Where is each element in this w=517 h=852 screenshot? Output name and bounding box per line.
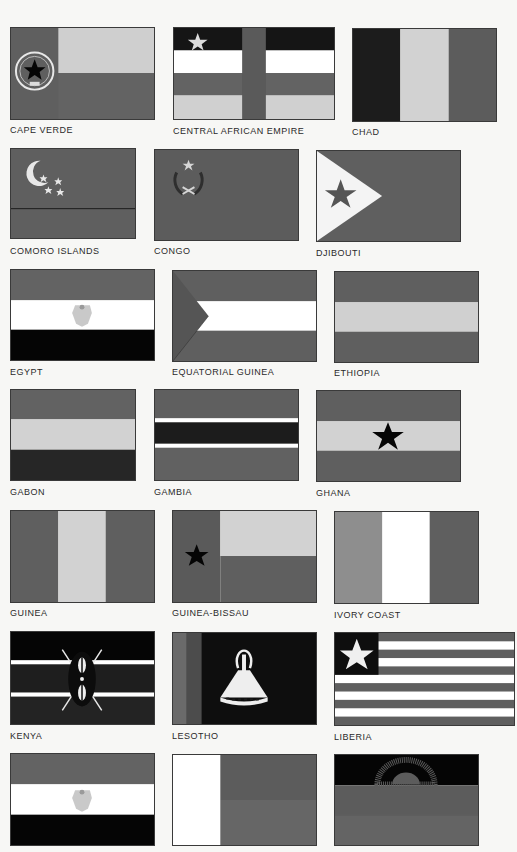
flag-label: GUINEA [10,608,48,618]
flag-label: GAMBIA [154,487,192,497]
flag-label: LIBERIA [334,732,372,742]
flag-libya-style [10,753,155,846]
flag-madagascar [172,754,317,846]
flag-label: CAPE VERDE [10,125,73,135]
flag-ethiopia [334,271,479,363]
flag-label: CHAD [352,127,380,137]
flag-label: ETHIOPIA [334,368,380,378]
flag-lesotho [172,632,317,725]
flag-label: GUINEA-BISSAU [172,608,249,618]
flag-label: EQUATORIAL GUINEA [172,367,274,377]
flag-label: GHANA [316,488,351,498]
flag-chad [352,28,497,122]
flag-label: IVORY COAST [334,610,401,620]
flag-malawi [334,754,479,846]
flag-liberia [334,632,515,726]
flag-label: KENYA [10,731,42,741]
flag-djibouti [316,150,461,242]
flag-central-african-empire [173,27,335,120]
flag-kenya [10,631,155,725]
flag-label: COMORO ISLANDS [10,246,100,256]
flag-label: CENTRAL AFRICAN EMPIRE [173,126,304,136]
flag-ivory-coast [334,511,479,604]
flag-cape-verde [10,27,155,120]
flag-label: GABON [10,487,45,497]
flag-label: LESOTHO [172,731,219,741]
flag-equatorial-guinea [172,270,317,362]
flag-ghana [316,390,461,482]
flag-label: CONGO [154,246,191,256]
flag-label: EGYPT [10,367,43,377]
flag-congo [154,149,299,241]
flag-egypt [10,269,155,361]
flag-gambia [154,389,299,481]
flag-guinea [10,510,155,603]
flag-guinea-bissau [172,510,317,603]
flag-comoro-islands [10,148,136,239]
flag-gabon [10,389,136,481]
flag-label: DJIBOUTI [316,248,361,258]
